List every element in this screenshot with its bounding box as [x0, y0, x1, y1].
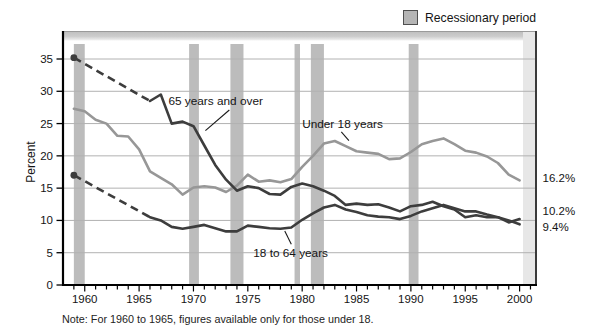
y-axis-title: Percent [24, 102, 42, 222]
leader-line-18-to-64-years [285, 231, 292, 244]
series-label-18-to-64-years: 18 to 64 years [253, 246, 328, 260]
series-label-under-18-years: Under 18 years [302, 117, 383, 131]
end-label-9-4-: 9.4% [543, 221, 569, 233]
footnote: Note: For 1960 to 1965, figures availabl… [62, 313, 374, 325]
y-tick-label: 25 [40, 118, 53, 130]
plot-area: 3530252015105019601965197019751980198519… [0, 0, 596, 336]
top-shade-band [64, 32, 537, 41]
y-tick-label: 10 [40, 214, 53, 226]
x-tick-label: 1995 [452, 293, 478, 305]
x-tick-label: 1970 [181, 293, 207, 305]
y-tick-label: 15 [40, 182, 53, 194]
right-shade-band [523, 32, 536, 284]
series-65-years-and-over-start-dot [70, 54, 77, 61]
y-tick-label: 5 [47, 247, 53, 259]
recession-swatch-icon [403, 10, 418, 25]
series-65-years-and-over-dashed [74, 58, 150, 101]
series-65-years-and-over-line [150, 95, 520, 223]
end-label-16-2-: 16.2% [543, 172, 576, 184]
y-tick-label: 35 [40, 53, 53, 65]
y-tick-label: 0 [47, 279, 53, 291]
recession-band [189, 44, 199, 284]
series-18-to-64-years-line [150, 205, 520, 232]
y-tick-label: 20 [40, 150, 53, 162]
series-label-65-years-and-over: 65 years and over [168, 94, 263, 108]
x-tick-label: 2000 [507, 293, 533, 305]
x-tick-label: 1965 [126, 293, 152, 305]
series-18-to-64-years-start-dot [70, 172, 77, 179]
x-tick-label: 1980 [289, 293, 315, 305]
y-tick-label: 30 [40, 85, 53, 97]
legend-label: Recessionary period [425, 11, 536, 25]
x-tick-label: 1985 [344, 293, 370, 305]
x-tick-label: 1990 [398, 293, 424, 305]
x-tick-label: 1975 [235, 293, 261, 305]
poverty-rate-by-age-chart: 3530252015105019601965197019751980198519… [0, 0, 596, 336]
recession-band [409, 44, 419, 284]
series-18-to-64-years-dashed [74, 175, 150, 217]
legend: Recessionary period [403, 10, 536, 25]
leader-line-65-years-and-over [205, 110, 229, 131]
end-label-10-2-: 10.2% [543, 205, 576, 217]
recession-band [230, 44, 243, 284]
x-tick-label: 1960 [72, 293, 98, 305]
recession-band [74, 44, 85, 284]
leader-line-under-18-years [341, 132, 349, 141]
